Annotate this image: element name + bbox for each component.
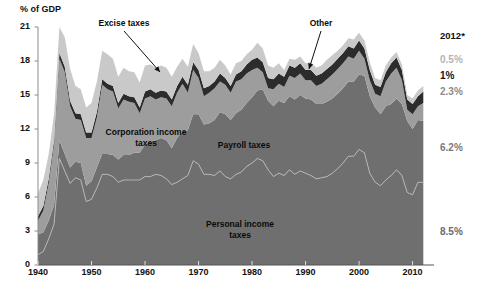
x-tick-2000: 2000 [339, 267, 379, 277]
x-tick-1950: 1950 [72, 267, 112, 277]
chart-root: % of GDP 036912151821 194019501960197019… [0, 0, 492, 289]
x-tick-1960: 1960 [125, 267, 165, 277]
x-tick-1990: 1990 [286, 267, 326, 277]
right-column-header: 2012* [440, 30, 465, 41]
right-value-corporation-income-taxes: 2.3% [440, 86, 463, 97]
y-tick-12: 12 [8, 123, 30, 133]
right-value-payroll-taxes: 6.2% [440, 142, 463, 153]
y-tick-9: 9 [8, 157, 30, 167]
annotation-payroll-taxes: Payroll taxes [184, 140, 304, 151]
y-tick-18: 18 [8, 55, 30, 65]
right-value-personal-income-taxes: 8.5% [440, 226, 463, 237]
x-tick-2010: 2010 [393, 267, 433, 277]
right-value-other: 1% [440, 70, 454, 81]
x-tick-1970: 1970 [179, 267, 219, 277]
y-tick-21: 21 [8, 21, 30, 31]
y-tick-15: 15 [8, 89, 30, 99]
y-tick-3: 3 [8, 225, 30, 235]
annotation-personal-income-taxes: Personal incometaxes [180, 219, 300, 241]
right-value-excise-taxes: 0.5% [440, 54, 463, 65]
x-tick-1940: 1940 [18, 267, 58, 277]
annotation-excise-taxes: Excise taxes [64, 18, 184, 29]
y-tick-6: 6 [8, 191, 30, 201]
x-tick-1980: 1980 [232, 267, 272, 277]
annotation-other: Other [261, 18, 381, 29]
